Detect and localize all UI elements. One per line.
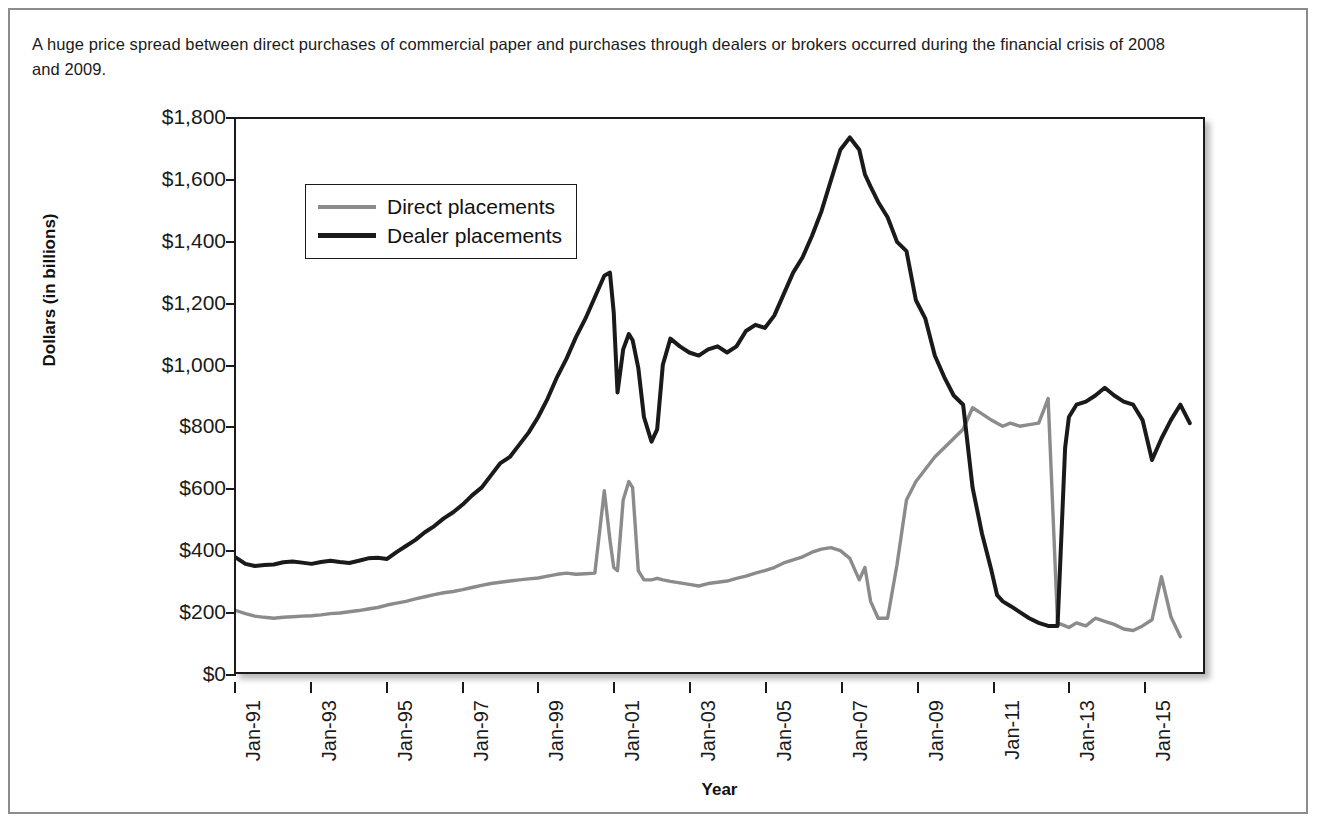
y-axis-tick-label: $400 — [179, 538, 226, 562]
x-axis-tick-label: Jan-99 — [545, 700, 568, 761]
chart-legend: Direct placements Dealer placements — [305, 184, 577, 259]
x-axis-tick-label: Jan-91 — [242, 700, 265, 761]
y-axis-tick-mark — [226, 241, 236, 243]
x-axis-title: Year — [234, 780, 1205, 800]
x-axis-tick-label: Jan-03 — [697, 700, 720, 761]
figure-frame: A huge price spread between direct purch… — [8, 8, 1308, 814]
legend-label-dealer: Dealer placements — [387, 224, 562, 248]
legend-label-direct: Direct placements — [387, 195, 555, 219]
x-axis-tick-label: Jan-07 — [849, 700, 872, 761]
x-axis-tick-label: Jan-11 — [1001, 700, 1024, 760]
y-axis-tick-mark — [226, 550, 236, 552]
x-axis-tick-mark — [613, 682, 615, 693]
y-axis-tick-label: $1,200 — [162, 291, 226, 315]
y-axis-tick-mark — [226, 365, 236, 367]
y-axis-tick-mark — [226, 179, 236, 181]
x-axis-tick-mark — [234, 682, 236, 693]
legend-item-direct: Direct placements — [318, 192, 562, 221]
x-axis-tick-label: Jan-95 — [394, 700, 417, 761]
x-axis-tick-label: Jan-09 — [925, 700, 948, 761]
y-axis-tick-mark — [226, 612, 236, 614]
x-axis-tick-label: Jan-01 — [621, 700, 644, 761]
y-axis-tick-mark — [226, 674, 236, 676]
x-axis-tick-label: Jan-97 — [470, 700, 493, 761]
y-axis-tick-label: $0 — [203, 662, 226, 686]
x-axis-tick-label: Jan-05 — [773, 700, 796, 761]
x-axis-tick-mark — [1144, 682, 1146, 693]
x-axis-tick-mark — [917, 682, 919, 693]
chart-area: Dollars (in billions) $0$200$400$600$800… — [10, 10, 1310, 816]
y-axis-title: Dollars (in billions) — [40, 180, 60, 400]
legend-swatch-direct-icon — [318, 205, 376, 209]
x-axis-tick-mark — [310, 682, 312, 693]
y-axis-tick-mark — [226, 117, 236, 119]
x-axis-tick-mark — [841, 682, 843, 693]
y-axis-tick-labels: $0$200$400$600$800$1,000$1,200$1,400$1,6… — [128, 117, 226, 674]
x-axis-tick-label: Jan-93 — [318, 700, 341, 761]
x-axis-tick-mark — [462, 682, 464, 693]
series-line-direct — [236, 399, 1180, 637]
legend-item-dealer: Dealer placements — [318, 221, 562, 250]
y-axis-tick-mark — [226, 488, 236, 490]
x-axis-tick-mark — [765, 682, 767, 693]
y-axis-tick-mark — [226, 303, 236, 305]
y-axis-tick-mark — [226, 426, 236, 428]
y-axis-tick-label: $1,600 — [162, 167, 226, 191]
x-axis-tick-mark — [993, 682, 995, 693]
x-axis-tick-label: Jan-13 — [1076, 700, 1099, 761]
y-axis-tick-label: $1,000 — [162, 353, 226, 377]
y-axis-tick-label: $600 — [179, 476, 226, 500]
x-axis-tick-mark — [1068, 682, 1070, 693]
x-axis-tick-mark — [537, 682, 539, 693]
y-axis-tick-label: $200 — [179, 600, 226, 624]
y-axis-tick-label: $1,800 — [162, 105, 226, 129]
x-axis-tick-label: Jan-15 — [1152, 700, 1175, 761]
x-axis-tick-mark — [386, 682, 388, 693]
y-axis-tick-label: $800 — [179, 414, 226, 438]
x-axis-tick-mark — [689, 682, 691, 693]
x-axis-tick-labels: Jan-91Jan-93Jan-95Jan-97Jan-99Jan-01Jan-… — [234, 682, 1205, 792]
y-axis-tick-label: $1,400 — [162, 229, 226, 253]
legend-swatch-dealer-icon — [318, 233, 376, 238]
